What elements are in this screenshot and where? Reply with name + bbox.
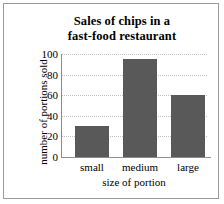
x-tick-large: large [157, 161, 219, 173]
plot-area [61, 54, 207, 157]
x-axis-tick-labels: small medium large [61, 161, 211, 175]
y-tick-0: 0 [24, 152, 58, 163]
y-tick-80: 80 [24, 70, 58, 81]
y-tick-60: 60 [24, 90, 58, 101]
y-tick-40: 40 [24, 111, 58, 122]
x-axis-line [61, 157, 211, 158]
chart-title-line-1: Sales of chips in a [32, 14, 212, 29]
chart-frame: Sales of chips in a fast-food restaurant… [3, 3, 219, 199]
y-tick-100: 100 [24, 49, 58, 60]
gridline-100 [61, 54, 207, 55]
y-axis-tick-labels: 100 80 60 40 20 0 [22, 54, 58, 157]
bar-large [171, 95, 205, 157]
chart-title: Sales of chips in a fast-food restaurant [32, 14, 212, 44]
chart-title-line-2: fast-food restaurant [32, 29, 212, 44]
x-axis-label: size of portion [61, 176, 207, 188]
y-axis-line [61, 54, 62, 157]
y-tick-20: 20 [24, 131, 58, 142]
bar-small [75, 126, 109, 157]
bar-medium [123, 59, 157, 157]
